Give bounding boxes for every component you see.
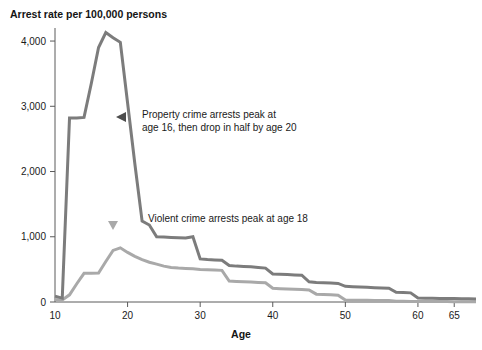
chart-container: Arrest rate per 100,000 persons 01,0002,… (0, 0, 482, 350)
annotation-line: Property crime arrests peak at (142, 109, 276, 120)
x-axis-title: Age (231, 328, 251, 340)
y-axis-ticks: 01,0002,0003,0004,000 (21, 36, 55, 308)
y-tick-label: 0 (40, 297, 46, 308)
violent-annotation-text: Violent crime arrests peak at age 18 (148, 213, 308, 224)
x-tick-label: 30 (195, 310, 207, 321)
chart-title: Arrest rate per 100,000 persons (10, 8, 167, 20)
x-tick-label: 50 (340, 310, 352, 321)
x-tick-label: 20 (122, 310, 134, 321)
x-tick-label: 40 (267, 310, 279, 321)
series-line-property-crime-arrests (55, 33, 476, 299)
data-series-group (55, 33, 476, 302)
annotation-line: Violent crime arrests peak at age 18 (148, 213, 308, 224)
y-tick-label: 3,000 (21, 101, 46, 112)
x-axis: 10203040506065 (49, 302, 476, 321)
x-axis-ticks: 10203040506065 (49, 302, 460, 321)
x-tick-label: 60 (412, 310, 424, 321)
x-tick-label: 10 (49, 310, 61, 321)
annotations-group: Property crime arrests peak atage 16, th… (108, 109, 308, 230)
property-annotation-text: Property crime arrests peak atage 16, th… (142, 109, 297, 133)
arrest-rate-line-chart: Arrest rate per 100,000 persons 01,0002,… (0, 0, 482, 350)
y-tick-label: 4,000 (21, 36, 46, 47)
y-tick-label: 1,000 (21, 231, 46, 242)
x-tick-label: 65 (449, 310, 461, 321)
annotation-down-triangle-icon (108, 221, 118, 230)
y-axis: 01,0002,0003,0004,000 (21, 28, 55, 308)
annotation-left-triangle-icon (116, 112, 126, 122)
y-tick-label: 2,000 (21, 166, 46, 177)
annotation-line: age 16, then drop in half by age 20 (142, 122, 297, 133)
